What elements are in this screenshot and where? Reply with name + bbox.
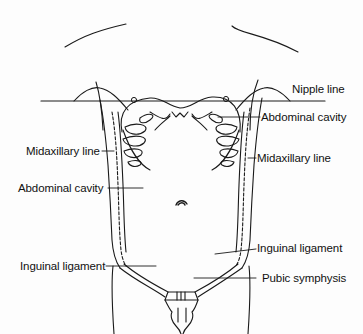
left-rib-1 [140, 114, 153, 122]
left-body-wall-inner [112, 112, 126, 266]
left-rib-5 [128, 161, 141, 167]
label-abdominal-cavity-right: Abdominal cavity [261, 111, 346, 123]
label-midaxillary-line-right: Midaxillary line [257, 152, 331, 164]
costal-contour [121, 97, 240, 132]
right-rib-2 [216, 124, 237, 134]
left-inguinal-ligament-2 [124, 264, 168, 292]
left-rib-3 [123, 136, 145, 146]
right-thigh [248, 266, 250, 334]
left-thigh [112, 266, 114, 334]
right-axilla-curve [236, 88, 290, 110]
genitalia [165, 300, 198, 334]
label-abdominal-cavity-left: Abdominal cavity [18, 182, 103, 194]
label-midaxillary-line-left: Midaxillary line [26, 145, 100, 157]
right-arm-contour [250, 80, 258, 130]
left-rib-2 [125, 124, 146, 134]
label-inguinal-ligament-right: Inguinal ligament [257, 242, 342, 254]
label-nipple-line: Nipple line [292, 83, 345, 95]
label-inguinal-ligament-left: Inguinal ligament [20, 260, 105, 272]
leader-inguinal-right [215, 249, 256, 254]
right-shoulder-line [232, 26, 298, 52]
umbilicus [176, 201, 187, 205]
left-arm-contour [96, 82, 103, 130]
xiphoid [172, 112, 188, 117]
left-body-wall-inner2 [118, 112, 126, 252]
right-rib-3 [217, 136, 239, 146]
left-shoulder-line [65, 24, 126, 47]
left-inguinal-ligament [120, 268, 165, 297]
right-inguinal-ligament [198, 268, 242, 297]
right-rib-1 [209, 114, 222, 122]
label-pubic-symphysis: Pubic symphysis [262, 272, 346, 284]
right-rib-5 [221, 161, 234, 167]
anatomy-diagram: Nipple line Abdominal cavity Midaxillary… [0, 0, 363, 334]
